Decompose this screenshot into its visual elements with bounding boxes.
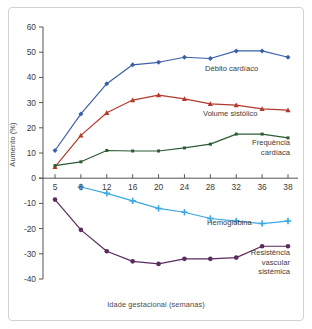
data-point-marker [286,55,291,60]
data-point-marker [208,56,213,61]
x-tick-label: 8 [79,182,84,192]
data-point-marker [235,133,238,136]
y-tick-label: -10 [24,198,36,208]
y-tick-label: -20 [24,224,36,234]
x-tick-label: 28 [206,182,216,192]
data-point-marker [105,149,108,152]
data-point-marker [79,228,84,233]
y-tick-label: 40 [27,72,37,82]
data-point-marker [261,133,264,136]
data-point-marker [156,262,161,267]
data-point-marker [157,149,160,152]
x-tick-label: 16 [128,182,138,192]
data-point-marker [260,48,265,53]
line-chart-plot: 6050403020100-10-20-30-40581216202428323… [0,0,312,329]
data-point-marker [182,257,187,262]
chart-figure: 6050403020100-10-20-30-40581216202428323… [0,0,312,329]
data-point-marker [156,60,161,65]
data-point-marker [209,143,212,146]
series-layer [52,48,291,266]
data-point-marker [183,146,186,149]
series-line [81,187,288,224]
y-tick-label: 10 [27,148,37,158]
series-volume-sistólico [52,92,290,169]
series-label-hemoglobina: Hemoglobina [207,218,252,228]
data-point-marker [208,257,213,262]
y-axis-title: Aumento (%) [8,100,17,190]
data-point-marker [131,149,134,152]
x-tick-label: 32 [232,182,242,192]
y-tick-label: -40 [24,274,36,284]
x-tick-label: 38 [283,182,293,192]
x-tick-label: 24 [180,182,190,192]
data-point-marker [182,55,187,60]
series-label-debito-cardiaco: Débito cardíaco [205,64,258,74]
series-label-frequencia-cardiaca: Frequência cardíaca [218,138,290,157]
y-tick-label: 0 [31,173,36,183]
data-point-marker [53,197,58,202]
series-label-resistencia-vascular-sistemica: Resistência vascular sistémica [218,248,290,277]
data-point-marker [104,249,109,254]
x-tick-label: 36 [257,182,267,192]
series-label-volume-sistolico: Volume sistólico [203,109,257,119]
x-axis-title: Idade gestacional (semanas) [0,300,312,309]
data-point-marker [79,160,82,163]
y-tick-label: 30 [27,98,37,108]
x-tick-label: 5 [53,182,58,192]
y-tick-label: 50 [27,47,37,57]
x-tick-label: 12 [102,182,112,192]
y-tick-label: -30 [24,249,36,259]
x-tick-label: 20 [154,182,164,192]
data-point-marker [234,48,239,53]
y-tick-label: 60 [27,22,37,32]
data-point-marker [54,164,57,167]
data-point-marker [104,110,109,115]
y-tick-label: 20 [27,123,37,133]
data-point-marker [130,259,135,264]
